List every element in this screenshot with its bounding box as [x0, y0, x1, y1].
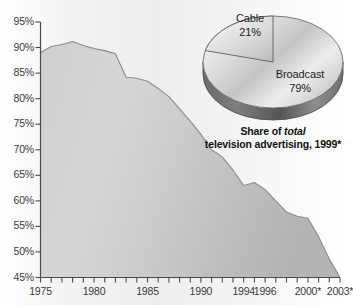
- y-tick-label-70: 70%: [0, 143, 34, 155]
- pie-caption-prefix: Share of: [241, 125, 285, 137]
- x-tick-label-2000: 2000*: [295, 285, 321, 297]
- y-tick-label-75: 75%: [0, 117, 34, 129]
- pie-chart-canvas: [195, 0, 351, 130]
- y-tick-label-65: 65%: [0, 168, 34, 180]
- x-tick-label-1980: 1980: [83, 285, 106, 297]
- x-tick-label-1975: 1975: [29, 285, 52, 297]
- pie-label-broadcast: Broadcast: [276, 68, 325, 80]
- x-tick-label-2003: 2003*: [327, 285, 353, 297]
- y-tick-label-95: 95%: [0, 15, 34, 27]
- y-tick-label-55: 55%: [0, 219, 34, 231]
- pie-caption-italic: total: [284, 125, 305, 137]
- x-tick-label-1994: 1994: [232, 285, 255, 297]
- pie-value-broadcast: 79%: [289, 82, 311, 94]
- pie-value-cable: 21%: [239, 26, 261, 38]
- x-tick-label-1985: 1985: [136, 285, 159, 297]
- pie-caption: Share of total television advertising, 1…: [195, 125, 351, 151]
- y-tick-label-85: 85%: [0, 66, 34, 78]
- y-tick-label-45: 45%: [0, 271, 34, 283]
- pie-caption-line2: television advertising, 1999*: [205, 138, 341, 150]
- y-tick-label-80: 80%: [0, 92, 34, 104]
- y-tick-label-50: 50%: [0, 245, 34, 257]
- y-tick-label-60: 60%: [0, 194, 34, 206]
- x-tick-label-1990: 1990: [190, 285, 213, 297]
- pie-label-cable: Cable: [236, 12, 264, 24]
- y-tick-label-90: 90%: [0, 41, 34, 53]
- x-tick-label-1996: 1996: [254, 285, 277, 297]
